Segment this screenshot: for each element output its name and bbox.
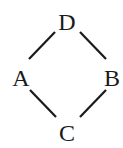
hasse-diagram: D A B C bbox=[0, 0, 123, 148]
edge-b-c bbox=[80, 90, 106, 117]
edge-a-c bbox=[30, 90, 56, 117]
edge-d-a bbox=[29, 32, 55, 59]
node-c-label: C bbox=[59, 120, 75, 146]
node-d-label: D bbox=[58, 9, 75, 35]
node-b-label: B bbox=[104, 65, 120, 91]
node-a-label: A bbox=[12, 65, 30, 91]
edge-d-b bbox=[80, 32, 106, 59]
